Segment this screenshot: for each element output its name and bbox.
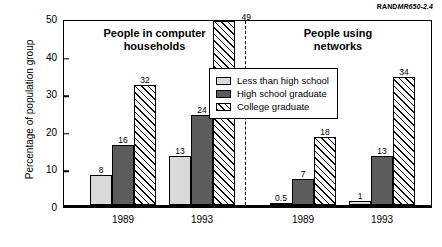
x-axis-label-computer-1993: 1993 xyxy=(169,214,235,225)
bar-networks-1993-less-than-high-school: 1 xyxy=(349,201,371,205)
plot-area: 01020304050 People in computer household… xyxy=(63,20,432,208)
bar-value-computer-1993-high-school-graduate: 24 xyxy=(197,105,206,115)
bar-computer-1993-high-school-graduate: 24 xyxy=(191,115,213,205)
bars: 81632 xyxy=(90,21,156,205)
bar-networks-1993-college-graduate: 34 xyxy=(393,77,415,205)
bar-value-networks-1993-college-graduate: 34 xyxy=(399,67,408,77)
bar-networks-1993-high-school-graduate: 13 xyxy=(371,156,393,205)
bar-value-networks-1989-high-school-graduate: 7 xyxy=(301,169,306,179)
bar-value-computer-1989-high-school-graduate: 16 xyxy=(118,135,127,145)
bar-group-computer-1989: 81632 1989 xyxy=(90,21,156,205)
x-axis-label-computer-1989: 1989 xyxy=(90,214,156,225)
y-tick-label-30: 30 xyxy=(27,89,57,100)
light-gray-swatch-icon xyxy=(216,77,231,85)
bar-networks-1989-less-than-high-school: 0.5 xyxy=(270,203,292,206)
bar-value-computer-1989-less-than-high-school: 8 xyxy=(99,165,104,175)
bar-networks-1989-college-graduate: 18 xyxy=(314,137,336,205)
bar-networks-1989-high-school-graduate: 7 xyxy=(292,179,314,205)
legend-label-less-than-high-school: Less than high school xyxy=(237,75,329,86)
legend-item-high-school-graduate: High school graduate xyxy=(216,87,329,100)
bar-value-networks-1989-less-than-high-school: 0.5 xyxy=(275,193,287,203)
legend-label-high-school-graduate: High school graduate xyxy=(237,88,327,99)
bar-computer-1989-less-than-high-school: 8 xyxy=(90,175,112,205)
x-axis-label-networks-1993: 1993 xyxy=(349,214,415,225)
bar-value-networks-1993-high-school-graduate: 13 xyxy=(377,146,386,156)
bar-group-networks-1993: 11334 1993 xyxy=(349,21,415,205)
source-id-prefix: RAND xyxy=(377,3,398,10)
bar-computer-1989-college-graduate: 32 xyxy=(134,85,156,205)
bar-computer-1993-less-than-high-school: 13 xyxy=(169,156,191,205)
y-tick-label-20: 20 xyxy=(27,127,57,138)
bar-value-networks-1989-college-graduate: 18 xyxy=(320,127,329,137)
hatched-swatch-icon xyxy=(216,103,231,111)
legend-item-college-graduate: College graduate xyxy=(216,100,329,113)
legend-item-less-than-high-school: Less than high school xyxy=(216,74,329,87)
y-tick-label-40: 40 xyxy=(27,52,57,63)
y-tick-label-10: 10 xyxy=(27,164,57,175)
source-id-label: RANDMR650-2.4 xyxy=(377,3,433,10)
x-axis-label-networks-1989: 1989 xyxy=(270,214,336,225)
bars: 11334 xyxy=(349,21,415,205)
bar-value-computer-1989-college-graduate: 32 xyxy=(140,75,149,85)
legend-label-college-graduate: College graduate xyxy=(237,101,309,112)
source-id-code: MR650-2.4 xyxy=(397,3,433,10)
chart-legend: Less than high school High school gradua… xyxy=(209,68,338,119)
dark-gray-swatch-icon xyxy=(216,90,231,98)
bar-value-networks-1993-less-than-high-school: 1 xyxy=(358,191,363,201)
y-tick-label-0: 0 xyxy=(27,202,57,213)
y-axis-title: Percentage of population group xyxy=(24,15,35,205)
y-tick-label-50: 50 xyxy=(27,14,57,25)
bar-value-computer-1993-less-than-high-school: 13 xyxy=(175,146,184,156)
chart-figure: RANDMR650-2.4 Percentage of population g… xyxy=(0,0,442,247)
bar-computer-1989-high-school-graduate: 16 xyxy=(112,145,134,205)
